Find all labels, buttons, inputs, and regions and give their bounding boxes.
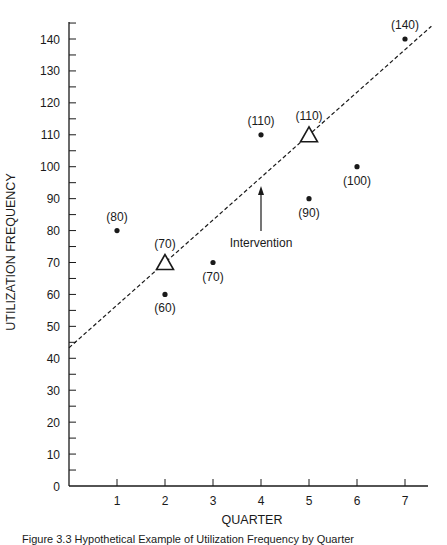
x-tick-label: 7: [402, 494, 409, 508]
y-tick-label: 80: [47, 224, 61, 238]
data-point-dot: [210, 260, 215, 265]
data-point-dot: [402, 36, 407, 41]
data-point-label: (110): [295, 109, 322, 123]
y-tick-label: 30: [47, 384, 61, 398]
y-axis-title: UTILIZATION FREQUENCY: [4, 173, 18, 331]
x-tick-label: 1: [114, 494, 121, 508]
y-tick-label: 20: [47, 416, 61, 430]
x-tick-label: 6: [354, 494, 361, 508]
data-points: (80)(60)(70)(110)(90)(100)(140)(70)(110): [106, 18, 419, 315]
y-tick-label: 90: [47, 192, 61, 206]
data-point-dot: [306, 196, 311, 201]
data-point-dot: [162, 292, 167, 297]
y-tick-label: 40: [47, 352, 61, 366]
y-tick-label: 140: [40, 33, 60, 47]
x-tick-label: 2: [162, 494, 169, 508]
intervention-label: Intervention: [230, 236, 293, 250]
data-point-label: (60): [154, 301, 175, 315]
y-tick-label: 10: [47, 448, 61, 462]
y-tick-label: 50: [47, 320, 61, 334]
data-point-label: (70): [154, 237, 175, 251]
data-point-label: (90): [298, 206, 319, 220]
triangle-marker: [301, 127, 318, 142]
arrow-head-icon: [258, 186, 264, 195]
y-tick-label: 60: [47, 288, 61, 302]
y-tick-label: 130: [40, 64, 60, 78]
dashed-trend-line: [69, 26, 431, 348]
y-tick-label: 70: [47, 256, 61, 270]
y-tick-label: 0: [53, 480, 60, 494]
figure-caption: Figure 3.3 Hypothetical Example of Utili…: [22, 533, 354, 545]
data-point-label: (110): [247, 114, 274, 128]
data-point-label: (100): [343, 174, 371, 188]
y-tick-label: 120: [40, 96, 60, 110]
x-tick-label: 4: [258, 494, 265, 508]
data-point-dot: [354, 164, 359, 169]
y-tick-label: 110: [41, 128, 60, 142]
intervention-annotation: Intervention: [230, 186, 293, 250]
x-tick-label: 5: [306, 494, 313, 508]
data-point-label: (70): [202, 270, 223, 284]
x-tick-label: 3: [210, 494, 217, 508]
y-axis: 0102030405060708090100110120130140: [40, 22, 76, 494]
data-point-dot: [114, 228, 119, 233]
x-axis-title: QUARTER: [222, 513, 283, 527]
data-point-label: (80): [106, 210, 127, 224]
y-tick-label: 100: [40, 160, 60, 174]
trend-line: [69, 26, 431, 348]
data-point-label: (140): [391, 18, 419, 32]
data-point-dot: [258, 132, 263, 137]
x-axis: 1234567: [69, 479, 428, 508]
